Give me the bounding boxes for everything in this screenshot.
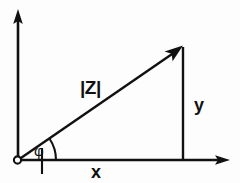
origin-dot-icon [14,156,21,163]
real-leg-label: x [91,163,101,181]
modulus-label: |Z| [80,78,101,97]
imaginary-leg-label: y [194,96,204,114]
angle-arc-icon [49,139,56,161]
arrowhead-vector-icon [165,46,184,62]
figure-canvas: |Z| y x φ [0,0,240,183]
angle-label: φ [34,143,44,158]
